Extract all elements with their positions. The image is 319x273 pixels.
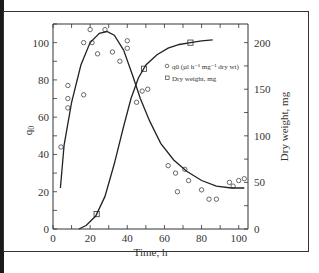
q0-data-point [125, 39, 129, 43]
legend-label-q0: q0 (µl h⁻¹ mg⁻¹ dry wt) [172, 63, 239, 71]
y-axis-title-right: Dry weight, mg [278, 91, 290, 161]
q0-data-point [175, 190, 179, 194]
legend-label-dry-weight: Dry weight, mg [172, 75, 217, 83]
y-tick-label-right: 200 [254, 37, 271, 49]
q0-data-point [242, 176, 246, 180]
q0-data-point [199, 188, 203, 192]
q0-data-point [214, 197, 218, 201]
q0-data-point [134, 100, 138, 104]
y-tick-label-left: 40 [38, 148, 50, 160]
q0-data-point [66, 96, 70, 100]
x-tick-label: 40 [122, 232, 134, 244]
chart-canvas: 020406080100020406080100050100150200Time… [0, 0, 319, 273]
q0-data-point [173, 171, 177, 175]
y-axis-title-left: q0 [22, 126, 36, 136]
x-tick-label: 20 [85, 232, 97, 244]
q0-data-point [140, 89, 144, 93]
legend-square-icon [166, 76, 170, 80]
y-tick-label-left: 20 [38, 186, 50, 198]
q0-curve [60, 32, 244, 189]
q0-data-point [81, 93, 85, 97]
q0-data-point [227, 180, 231, 184]
q0-data-point [81, 40, 85, 44]
q0-data-point [59, 145, 63, 149]
q0-data-point [110, 50, 114, 54]
q0-data-point [207, 197, 211, 201]
q0-data-point [88, 27, 92, 31]
y-tick-label-left: 60 [38, 111, 50, 123]
y-tick-label-left: 100 [33, 37, 50, 49]
q0-data-point [66, 106, 70, 110]
x-tick-label: 60 [159, 232, 171, 244]
x-tick-label: 80 [196, 232, 208, 244]
x-tick-label: 100 [230, 232, 247, 244]
q0-data-point [95, 52, 99, 56]
x-axis-title: Time, h [134, 246, 168, 258]
q0-data-point [166, 163, 170, 167]
q0-data-point [118, 59, 122, 63]
y-tick-label-right: 150 [254, 83, 271, 95]
y-tick-label-left: 80 [38, 74, 50, 86]
legend-circle-icon [165, 64, 169, 68]
q0-data-point [146, 87, 150, 91]
q0-data-point [125, 46, 129, 50]
y-tick-label-right: 100 [254, 130, 271, 142]
y-tick-label-right: 0 [254, 223, 260, 235]
q0-data-point [237, 178, 241, 182]
x-tick-label: 0 [50, 232, 56, 244]
q0-data-point [66, 83, 70, 87]
q0-data-point [186, 178, 190, 182]
y-tick-label-right: 50 [254, 176, 266, 188]
y-tick-label-left: 0 [44, 223, 50, 235]
